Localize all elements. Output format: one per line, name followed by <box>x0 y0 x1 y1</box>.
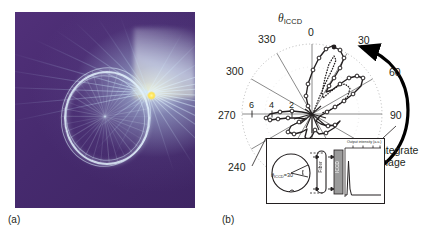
polar-trace-dotted <box>314 56 350 113</box>
inset-angle-wedge <box>291 165 308 177</box>
figure-root: (a) <box>0 0 435 233</box>
inset-angle-label: θICCD=30 <box>271 172 293 179</box>
angle-label-330: 330 <box>258 33 276 45</box>
panel-b-polar-plot: θICCD 0 30 60 90 240 270 300 330 6 4 2 I… <box>222 6 428 211</box>
inset-flow-arrows <box>313 155 334 191</box>
panel-b-label: (b) <box>222 214 234 225</box>
inset-theta-subscript: ICCD <box>274 174 284 179</box>
angle-label-60: 60 <box>389 66 401 78</box>
panel-a-hotspot <box>147 91 156 100</box>
inset-svg <box>267 139 384 203</box>
polar-data-markers <box>264 47 365 142</box>
inset-intensity-trace <box>345 161 381 195</box>
inset-plot-axis-title: Output intensity (a.u.) <box>347 140 381 144</box>
polar-axis-title: θICCD <box>278 12 302 26</box>
panel-a-image <box>15 12 195 208</box>
angle-label-30: 30 <box>358 34 370 46</box>
radial-label-6: 6 <box>249 100 254 110</box>
inset-fiber-label: Fiber <box>318 161 323 172</box>
radial-label-2: 2 <box>289 100 294 110</box>
inset-iccd-label: ICCD <box>335 161 340 173</box>
angle-label-300: 300 <box>226 65 244 77</box>
angle-label-0: 0 <box>308 26 314 38</box>
polar-marker-highlight <box>332 45 337 50</box>
angle-label-240: 240 <box>228 161 246 173</box>
theta-subscript: ICCD <box>284 17 303 26</box>
radial-label-4: 4 <box>269 100 274 110</box>
inset-theta-value: =30 <box>284 172 293 178</box>
panel-a-label: (a) <box>8 214 20 225</box>
angle-label-270: 270 <box>218 109 236 121</box>
inset-schematic: θICCD=30 Fiber ICCD Output intensity (a.… <box>266 138 385 204</box>
angle-label-90: 90 <box>390 109 402 121</box>
